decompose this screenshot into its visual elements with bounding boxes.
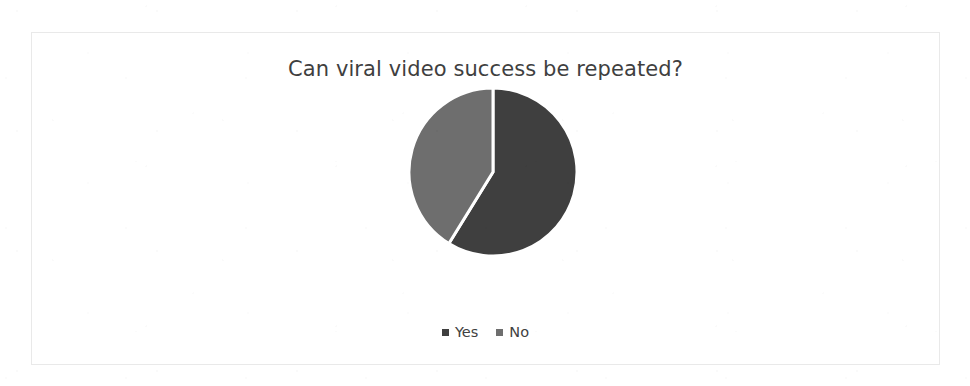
pie-chart [407, 86, 579, 258]
chart-legend: YesNo [32, 324, 939, 340]
legend-item-label: Yes [455, 324, 478, 340]
legend-square-marker [442, 329, 449, 336]
legend-square-marker [496, 329, 503, 336]
chart-title: Can viral video success be repeated? [32, 57, 939, 82]
legend-item-yes[interactable]: Yes [442, 324, 478, 340]
legend-item-no[interactable]: No [496, 324, 529, 340]
pie-chart-svg [407, 86, 579, 258]
pie-slice-group [409, 88, 577, 256]
chart-container: Can viral video success be repeated? Yes… [31, 32, 940, 365]
legend-item-label: No [509, 324, 529, 340]
